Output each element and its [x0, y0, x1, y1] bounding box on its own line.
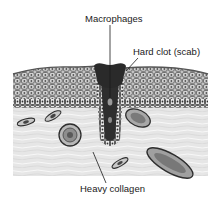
- skin-cross-section: [0, 0, 218, 197]
- basal-layer-right: [120, 99, 208, 107]
- macrophages-label: Macrophages: [85, 14, 143, 24]
- basal-layer-left: [13, 99, 100, 107]
- wound-healing-diagram: Macrophages Hard clot (scab) Heavy colla…: [0, 0, 218, 197]
- hard-clot-label: Hard clot (scab): [133, 47, 200, 57]
- macrophage-cell: [108, 117, 112, 123]
- macrophage-cell: [108, 99, 113, 106]
- heavy-collagen-label: Heavy collagen: [80, 184, 145, 194]
